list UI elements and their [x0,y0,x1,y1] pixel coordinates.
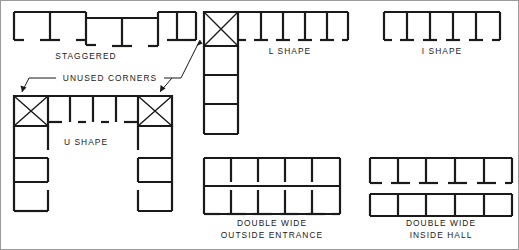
label-staggered: STAGGERED [55,51,116,61]
figure-l-shape: L SHAPE [204,12,348,134]
unused-corner-x-u-right [138,96,172,126]
diagram-frame [1,1,519,250]
label-u-shape: U SHAPE [64,137,108,147]
figure-staggered: STAGGERED [14,12,196,61]
figure-double-wide-inside-hall: DOUBLE WIDE INSIDE HALL [370,158,512,240]
label-i-shape: I SHAPE [422,46,462,56]
annotation-unused-corners: UNUSED CORNERS [21,40,203,92]
label-double-wide-inside-hall-line1: DOUBLE WIDE [406,218,476,228]
diagram-canvas: STAGGERED [0,0,519,250]
figure-u-shape: U SHAPE [14,96,172,211]
label-l-shape: L SHAPE [269,46,311,56]
label-double-wide-outside-entrance-line1: DOUBLE WIDE [237,218,307,228]
label-unused-corners: UNUSED CORNERS [63,73,157,83]
figure-double-wide-outside-entrance: DOUBLE WIDE OUTSIDE ENTRANCE [204,158,340,240]
label-double-wide-inside-hall-line2: INSIDE HALL [410,230,473,240]
floor-plan-svg: STAGGERED [0,0,519,250]
label-double-wide-outside-entrance-line2: OUTSIDE ENTRANCE [221,230,323,240]
unused-corner-x-u-left [14,96,48,126]
figure-i-shape: I SHAPE [384,12,500,56]
unused-corner-x-l-shape [204,12,238,46]
